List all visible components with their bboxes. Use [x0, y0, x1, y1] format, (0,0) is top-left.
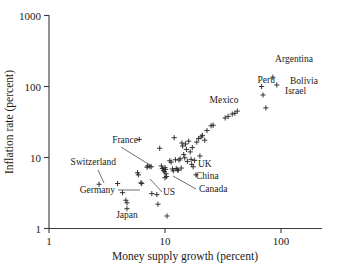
y-tick-label: 1000 — [19, 10, 42, 22]
x-axis-ticks: 110100 — [46, 229, 290, 248]
country-label-germany: Germany — [80, 185, 116, 195]
data-point — [138, 180, 143, 185]
data-point — [155, 202, 160, 207]
data-point — [164, 213, 169, 218]
country-label-israel: Israel — [285, 86, 306, 96]
country-label-japan: Japan — [116, 210, 138, 220]
x-axis-title: Money supply growth (percent) — [112, 250, 258, 263]
data-point — [197, 153, 202, 158]
data-point — [139, 181, 144, 186]
country-label-canada: Canada — [199, 184, 228, 194]
data-point — [149, 191, 154, 196]
data-point — [179, 140, 184, 145]
data-point — [202, 138, 207, 143]
annotation-labels: SwitzerlandGermanyJapanFranceUSCanadaUKC… — [71, 54, 319, 220]
country-label-argentina: Argentina — [275, 54, 314, 64]
data-point-germany — [115, 181, 120, 186]
country-label-peru: Peru — [258, 75, 276, 85]
country-label-bolivia: Bolivia — [290, 76, 319, 86]
country-label-us: US — [163, 187, 175, 197]
leader-line-france — [121, 147, 153, 167]
data-point — [184, 147, 189, 152]
country-label-china: China — [196, 171, 219, 181]
y-tick-label: 1 — [36, 223, 42, 235]
leader-line-switzerland — [98, 170, 104, 183]
x-tick-label: 1 — [46, 235, 52, 247]
data-point — [230, 111, 235, 116]
data-point — [123, 198, 128, 203]
chart-figure: 1101001000 110100 SwitzerlandGermanyJapa… — [0, 0, 337, 265]
data-point — [124, 200, 129, 205]
plot-axes — [49, 15, 322, 229]
leader-line-us — [150, 179, 162, 192]
data-point — [120, 190, 125, 195]
y-tick-label: 100 — [25, 81, 42, 93]
x-tick-label: 100 — [273, 235, 290, 247]
leader-line-canada — [173, 176, 196, 189]
data-point-israel — [260, 92, 265, 97]
data-point — [178, 156, 183, 161]
data-point — [182, 155, 187, 160]
y-tick-label: 10 — [30, 152, 42, 164]
data-point — [154, 192, 159, 197]
country-label-switzerland: Switzerland — [71, 157, 117, 167]
data-point — [192, 158, 197, 163]
country-label-mexico: Mexico — [209, 95, 238, 105]
data-point — [176, 157, 181, 162]
x-tick-label: 10 — [160, 235, 172, 247]
country-label-uk: UK — [198, 159, 212, 169]
data-point — [186, 139, 191, 144]
data-points-layer — [96, 75, 279, 219]
data-point — [181, 152, 186, 157]
scatter-plot-canvas: 1101001000 110100 SwitzerlandGermanyJapa… — [0, 0, 337, 265]
y-axis-title: Inflation rate (percent) — [3, 70, 16, 174]
data-point — [172, 135, 177, 140]
y-axis-ticks: 1101001000 — [19, 10, 49, 235]
data-point — [157, 146, 162, 151]
data-point — [263, 105, 268, 110]
country-label-france: France — [112, 135, 138, 145]
data-point — [204, 128, 209, 133]
